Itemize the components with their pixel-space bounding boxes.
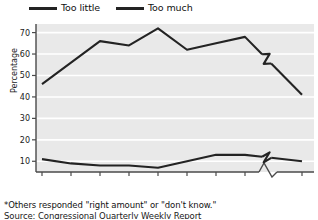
legend-label-too-little: Too little [61, 3, 100, 13]
legend-item-too-much: Too much [116, 0, 193, 16]
y-tick-label: 30 [20, 114, 30, 123]
y-tick-label: 40 [20, 93, 30, 102]
chart-notes: *Others responded "right amount" or "don… [4, 200, 318, 219]
legend-item-too-little: Too little [29, 0, 100, 16]
legend-swatch-too-much [116, 7, 144, 10]
chart-legend: Too little Too much [0, 0, 318, 16]
plot-background [36, 24, 314, 172]
y-tick-label: 60 [20, 50, 30, 59]
chart-figure: Too little Too much Percentage 102030405… [0, 0, 318, 219]
y-tick-label: 10 [20, 157, 30, 166]
legend-swatch-too-little [29, 7, 57, 10]
y-tick-label: 20 [20, 136, 30, 145]
y-axis-ticks: 10203040506070 [20, 29, 36, 167]
chart-svg: 10203040506070 1982198319841985198619871… [0, 18, 318, 178]
footnote-text: *Others responded "right amount" or "don… [4, 200, 318, 211]
plot-area: 10203040506070 1982198319841985198619871… [0, 18, 318, 178]
legend-label-too-much: Too much [148, 3, 193, 13]
source-text: Source: Congressional Quarterly Weekly R… [4, 211, 318, 220]
y-tick-label: 50 [20, 71, 30, 80]
y-tick-label: 70 [20, 29, 30, 38]
